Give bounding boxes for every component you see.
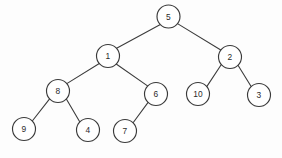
tree-node-label-5: 5 [166,12,171,22]
tree-edges-group [32,24,251,123]
tree-node-label-6: 6 [154,89,159,99]
tree-node-label-7: 7 [123,126,128,136]
tree-node-label-4: 4 [86,125,91,135]
tree-edge-2-3 [238,65,251,87]
tree-node-10: 10 [187,83,210,106]
tree-node-label-1: 1 [106,51,111,61]
binary-tree-diagram: 51286103947 [0,0,282,158]
tree-node-label-2: 2 [228,52,233,62]
tree-node-9: 9 [13,118,36,141]
tree-edge-2-10 [207,64,222,87]
tree-edge-8-9 [32,99,49,121]
tree-node-label-8: 8 [56,86,61,96]
tree-node-4: 4 [77,119,100,142]
tree-edge-1-8 [67,64,100,84]
tree-node-label-9: 9 [22,124,27,134]
tree-node-6: 6 [145,83,168,106]
tree-node-1: 1 [97,45,120,68]
tree-node-label-10: 10 [193,89,203,99]
tree-edge-6-7 [133,102,148,123]
tree-edge-8-4 [67,99,80,122]
tree-edge-5-1 [117,25,160,49]
tree-edge-5-2 [178,24,222,51]
tree-node-7: 7 [114,120,137,143]
tree-node-5: 5 [157,5,180,28]
tree-edge-1-6 [116,64,148,86]
tree-node-3: 3 [248,84,271,107]
tree-node-8: 8 [47,80,70,103]
tree-node-2: 2 [219,46,242,69]
tree-nodes-group: 51286103947 [13,5,271,143]
tree-canvas: 51286103947 [0,0,282,158]
tree-node-label-3: 3 [257,90,262,100]
